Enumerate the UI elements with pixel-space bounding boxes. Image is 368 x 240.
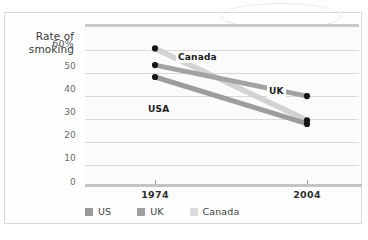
data-point-uk-1974: [152, 62, 158, 68]
x-tick-mark-1974: [155, 180, 156, 184]
x-tick-mark-2004: [307, 180, 308, 184]
x-tick-label-2004: 2004: [282, 189, 332, 200]
legend-swatch-icon-uk: [137, 208, 145, 216]
series-annotation-canada: Canada: [176, 51, 219, 63]
y-tick-label-10: 10: [44, 153, 76, 163]
chart-legend: US UK Canada: [85, 206, 315, 217]
series-annotation-usa: USA: [146, 103, 171, 115]
legend-label-uk: UK: [150, 206, 163, 217]
y-tick-label-40: 40: [44, 84, 76, 94]
data-point-us-1974: [152, 74, 158, 80]
legend-item-canada[interactable]: Canada: [190, 206, 240, 217]
series-annotation-uk: UK: [267, 85, 286, 97]
y-tick-label-20: 20: [44, 130, 76, 140]
legend-swatch-icon-us: [85, 208, 93, 216]
series-overlay: [85, 24, 359, 185]
y-tick-label-0: 0: [44, 177, 76, 187]
legend-label-us: US: [98, 206, 111, 217]
data-point-canada-1974: [152, 45, 158, 51]
y-tick-label-50: 50: [44, 61, 76, 71]
data-point-uk-2004: [304, 93, 310, 99]
legend-item-us[interactable]: US: [85, 206, 111, 217]
legend-swatch-icon-canada: [190, 208, 198, 216]
y-tick-label-30: 30: [44, 107, 76, 117]
x-axis: [85, 184, 362, 187]
x-tick-label-1974: 1974: [130, 189, 180, 200]
legend-label-canada: Canada: [203, 206, 240, 217]
legend-item-uk[interactable]: UK: [137, 206, 163, 217]
y-tick-label-60: 60%: [42, 38, 74, 49]
data-point-us-2004: [304, 121, 310, 127]
